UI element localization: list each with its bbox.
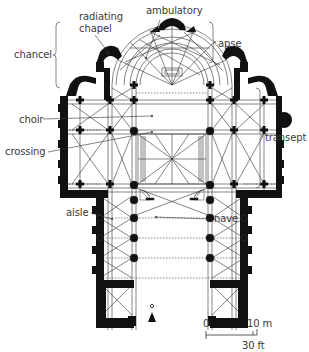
choir-leader xyxy=(43,116,152,119)
plan-walls xyxy=(58,18,292,328)
label-chancel: chancel xyxy=(14,49,52,60)
label-choir: choir xyxy=(19,114,43,125)
label-ambulatory: ambulatory xyxy=(146,5,203,16)
chancel-brace xyxy=(53,22,60,88)
stair-turrets xyxy=(140,190,204,200)
radiating-chapel-leader xyxy=(95,35,108,52)
label-aisle: aisle xyxy=(66,207,89,218)
label-apse: apse xyxy=(218,38,241,49)
label-radiating-chapel-line1: radiating xyxy=(79,11,123,22)
label-crossing: crossing xyxy=(5,146,46,157)
apse-brace xyxy=(209,22,216,63)
label-radiating-chapel-line2: chapel xyxy=(79,23,112,34)
scale-bar xyxy=(206,329,257,339)
label-transept: transept xyxy=(265,132,306,143)
scale-imperial-label: 30 ft xyxy=(242,340,265,351)
scale-metric-label: 10 m xyxy=(247,318,272,329)
scale-zero-label: 0 xyxy=(203,318,209,329)
label-nave: nave xyxy=(214,213,238,224)
leader-lines xyxy=(43,20,210,220)
